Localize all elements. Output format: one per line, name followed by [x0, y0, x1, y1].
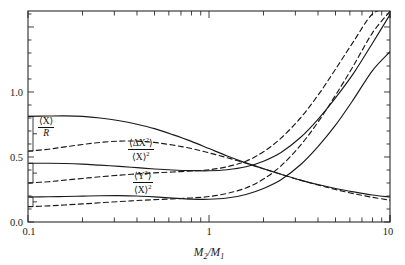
- curve-5: [28, 11, 390, 206]
- curve-label-y2-numerator: ⟨Y2⟩: [133, 170, 153, 183]
- y-tick-label: 0.0: [10, 217, 23, 228]
- x-tick-label: 10: [383, 226, 394, 237]
- y-tick-label: 1.0: [10, 87, 23, 98]
- curve-label-x-over-r: ⟨X⟩ R: [38, 117, 54, 138]
- x-tick-label: 1: [206, 226, 211, 237]
- curve-2: [28, 15, 390, 171]
- tick-labels: 0.00.51.00.1110M2/M1: [10, 87, 393, 261]
- figure-container: 0.00.51.00.1110M2/M1 ⟨X⟩ R ⟨ΔX2⟩ ⟨X⟩2 ⟨Y…: [0, 0, 405, 265]
- curve-label-delta-x2-denominator: ⟨X⟩2: [128, 150, 154, 162]
- curve-4: [28, 52, 390, 200]
- curve-label-delta-x2-over-x2: ⟨ΔX2⟩ ⟨X⟩2: [128, 137, 154, 162]
- x-axis-label: M2/M1: [193, 246, 224, 261]
- x-tick-label: 0.1: [22, 226, 35, 237]
- plot-canvas: 0.00.51.00.1110M2/M1: [0, 0, 405, 265]
- curve-3: [28, 9, 390, 183]
- y-tick-label: 0.5: [10, 152, 23, 163]
- curve-0: [28, 116, 390, 197]
- curve-label-delta-x2-numerator: ⟨ΔX2⟩: [128, 137, 154, 150]
- curve-label-x-over-r-numerator: ⟨X⟩: [38, 117, 54, 128]
- data-curves: [28, 9, 390, 207]
- curve-label-x-over-r-denominator: R: [38, 128, 54, 138]
- curve-label-y2-over-x2: ⟨Y2⟩ ⟨X⟩2: [133, 170, 153, 195]
- curve-label-y2-denominator: ⟨X⟩2: [133, 183, 153, 195]
